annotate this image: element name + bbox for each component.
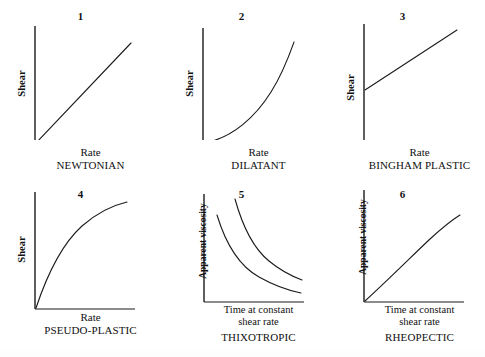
y-axis-label: Shear (16, 62, 27, 106)
x-axis-label: Rate (10, 311, 171, 324)
panel-caption: PSEUDO-PLASTIC (10, 324, 171, 336)
panel-caption: BINGHAM PLASTIC (339, 159, 485, 171)
plot-area-thixotropic (161, 178, 322, 318)
x-axis-label-line2: shear rate (178, 316, 339, 328)
page-edge-artifact (0, 351, 485, 357)
data-curve (204, 42, 294, 140)
data-curve (36, 43, 131, 140)
x-axis-label-line2: shear rate (339, 316, 485, 328)
y-axis-label: Apparent viscosity (358, 189, 368, 285)
panel-caption: THIXOTROPIC (178, 331, 339, 343)
chart-svg-rheopectic (322, 178, 483, 318)
panel-pseudo-plastic: 4 Shear Rate PSEUDO-PLASTIC (0, 178, 161, 356)
figure-sheet: 1 Shear Rate NEWTONIAN 2 Shear Rate DILA… (0, 0, 485, 357)
panel-bingham-plastic: 3 Shear Rate BINGHAM PLASTIC (322, 0, 483, 178)
y-axis-label: Shear (345, 66, 356, 110)
y-axis-label: Shear (16, 228, 27, 272)
data-curve (365, 30, 457, 90)
chart-svg-thixotropic (161, 178, 322, 318)
x-axis-label: Rate (178, 146, 339, 159)
x-axis-label-line1: Time at constant (339, 304, 485, 316)
x-axis-label: Rate (339, 146, 485, 159)
panel-rheopectic: 6 Apparent viscosity Time at constant sh… (322, 178, 483, 356)
x-axis-label: Rate (10, 146, 171, 159)
panel-thixotropic: 5 Apparent viscosity Time at constant sh… (161, 178, 322, 356)
panel-newtonian: 1 Shear Rate NEWTONIAN (0, 0, 161, 178)
panel-caption: RHEOPECTIC (339, 331, 485, 343)
x-axis-label-line1: Time at constant (178, 304, 339, 316)
data-curve-upper (235, 199, 302, 280)
panel-caption: DILATANT (178, 159, 339, 171)
data-curve-lower (217, 215, 301, 293)
panel-caption: NEWTONIAN (10, 159, 171, 171)
y-axis-label: Apparent viscosity (198, 193, 208, 289)
plot-area-rheopectic (322, 178, 483, 318)
y-axis-label: Shear (184, 62, 195, 106)
panel-dilatant: 2 Shear Rate DILATANT (161, 0, 322, 178)
data-curve (365, 215, 460, 301)
data-curve (36, 202, 127, 308)
